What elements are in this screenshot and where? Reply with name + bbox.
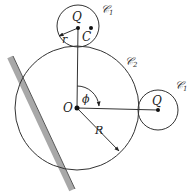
- inclined-wall: [10, 56, 75, 190]
- point-right-q: [156, 108, 160, 112]
- label-right-q: Q: [152, 94, 162, 108]
- label-c2: 𝒞2: [125, 55, 138, 69]
- diagram-canvas: Q C r 𝒞1 𝒞2 O ϕ R Q 𝒞1: [0, 0, 193, 196]
- point-o: [75, 106, 80, 111]
- line-o-to-right-q: [77, 108, 158, 110]
- line-o-to-top-q: [77, 28, 78, 108]
- label-c1-top: 𝒞1: [101, 3, 113, 17]
- label-c1-right: 𝒞1: [175, 79, 187, 93]
- label-o: O: [63, 101, 73, 115]
- label-top-q: Q: [72, 10, 82, 24]
- label-small-r: r: [62, 33, 68, 46]
- label-c: C: [82, 30, 91, 44]
- label-big-r: R: [94, 124, 103, 137]
- label-phi: ϕ: [82, 93, 90, 106]
- point-top-q: [76, 26, 80, 30]
